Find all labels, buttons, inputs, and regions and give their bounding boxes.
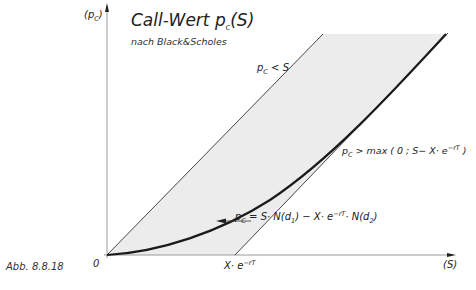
x-axis-arrow-icon (447, 253, 456, 257)
origin-label: 0 (93, 258, 99, 269)
figure-title: Call-Wert pC(S) (131, 10, 254, 32)
y-axis-label: (pC) (84, 9, 103, 23)
upper-bound-label: pC < S (257, 62, 289, 76)
y-axis-arrow-icon (105, 3, 109, 12)
black-scholes-formula: pC = S· N(d1) − X· e−rT· N(d2) (235, 210, 377, 225)
x-axis-label: (S) (443, 259, 457, 270)
figure-subtitle: nach Black&Scholes (131, 36, 227, 47)
strike-discount-label: X· e−rT (224, 259, 255, 271)
lower-bound-label: pC > max ( 0 ; S− X· e−rT ) (342, 144, 467, 159)
figure-caption: Abb. 8.8.18 (6, 261, 64, 272)
